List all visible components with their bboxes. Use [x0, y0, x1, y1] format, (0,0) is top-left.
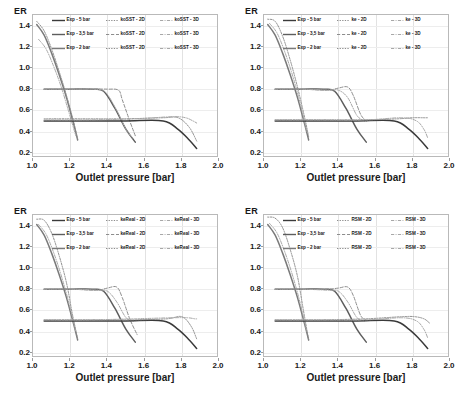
legend-item[interactable]: koSST - 3D	[160, 18, 212, 23]
legend-line-swatch	[52, 232, 65, 237]
y-tick-label: 0.4	[0, 126, 30, 135]
legend-item[interactable]: Exp - 2 bar	[52, 46, 104, 51]
x-tick-label: 1.4	[332, 361, 343, 370]
legend-line-swatch	[106, 46, 119, 51]
y-tick-label: 0.2	[0, 147, 30, 156]
legend-label: Exp - 5 bar	[298, 18, 322, 23]
legend-item[interactable]: koSST - 2D	[106, 46, 158, 51]
legend-line-swatch	[52, 218, 65, 223]
legend-item[interactable]: Exp - 2 bar	[283, 246, 335, 251]
legend-line-swatch	[106, 218, 119, 223]
y-tick-label: 0.6	[0, 305, 30, 314]
y-tick-label: 1.0	[231, 263, 261, 272]
y-tick-label: 1.2	[231, 41, 261, 50]
y-tick-label: 1.0	[231, 63, 261, 72]
legend-item[interactable]: keReal - 2D	[106, 218, 158, 223]
legend-item[interactable]: Exp - 2 bar	[283, 46, 335, 51]
legend-label: keReal - 3D	[175, 246, 200, 251]
figure-grid: ER 0.20.40.60.81.01.21.4 1.01.21.41.61.8…	[0, 0, 462, 400]
legend-item[interactable]: Exp - 3,5 bar	[52, 32, 104, 37]
series-line	[275, 289, 364, 321]
legend-item[interactable]: Exp - 5 bar	[52, 18, 104, 23]
x-tick-label: 1.8	[175, 161, 186, 170]
legend-item[interactable]: ke - 3D	[391, 18, 443, 23]
y-tick-group-2: 0.20.40.60.81.01.21.4	[0, 214, 30, 357]
legend-label: RSM - 2D	[352, 246, 372, 251]
x-tick-group-2: 1.01.21.41.61.82.0	[32, 358, 218, 372]
legend-item[interactable]: koSST - 2D	[106, 32, 158, 37]
x-tick-group-1: 1.01.21.41.61.82.0	[263, 158, 449, 172]
x-tick-mark	[300, 358, 301, 361]
x-tick-mark	[106, 358, 107, 361]
legend-item[interactable]: keReal - 2D	[106, 232, 158, 237]
legend-item[interactable]: ke - 2D	[337, 18, 389, 23]
legend-label: ke - 2D	[352, 46, 367, 51]
legend-item[interactable]: Exp - 3,5 bar	[52, 232, 104, 237]
legend-item[interactable]: ke - 3D	[391, 32, 443, 37]
legend-line-swatch	[160, 232, 173, 237]
x-axis-title: Outlet pressure [bar]	[263, 172, 449, 183]
y-tick-label: 0.8	[231, 84, 261, 93]
legend-line-swatch	[391, 46, 404, 51]
legend-item[interactable]: RSM - 2D	[337, 232, 389, 237]
legend-label: Exp - 3,5 bar	[298, 32, 325, 37]
x-tick-label: 1.2	[64, 361, 75, 370]
y-tick-label: 0.6	[231, 305, 261, 314]
legend-label: koSST - 2D	[121, 46, 145, 51]
legend-item[interactable]: RSM - 2D	[337, 218, 389, 223]
x-tick-mark	[412, 158, 413, 161]
x-tick-label: 2.0	[443, 161, 454, 170]
legend-line-swatch	[160, 218, 173, 223]
legend-item[interactable]: RSM - 3D	[391, 218, 443, 223]
legend-item[interactable]: Exp - 5 bar	[283, 218, 335, 223]
legend-item[interactable]: koSST - 3D	[160, 46, 212, 51]
legend-item[interactable]: Exp - 3,5 bar	[283, 232, 335, 237]
legend-item[interactable]: koSST - 3D	[160, 32, 212, 37]
legend-label: koSST - 3D	[175, 32, 199, 37]
legend-1: Exp - 5 barke - 2Dke - 3DExp - 3,5 barke…	[283, 18, 443, 51]
x-axis-title: Outlet pressure [bar]	[263, 372, 449, 383]
legend-item[interactable]: ke - 2D	[337, 46, 389, 51]
legend-item[interactable]: Exp - 5 bar	[52, 218, 104, 223]
legend-item[interactable]: ke - 3D	[391, 46, 443, 51]
legend-item[interactable]: RSM - 2D	[337, 246, 389, 251]
legend-line-swatch	[391, 218, 404, 223]
legend-item[interactable]: Exp - 5 bar	[283, 18, 335, 23]
legend-item[interactable]: keReal - 2D	[106, 246, 158, 251]
x-tick-mark	[32, 358, 33, 361]
x-tick-mark	[337, 358, 338, 361]
legend-item[interactable]: Exp - 2 bar	[52, 246, 104, 251]
series-line	[275, 289, 366, 342]
legend-label: Exp - 2 bar	[67, 246, 91, 251]
legend-item[interactable]: Exp - 3,5 bar	[283, 32, 335, 37]
legend-item[interactable]: ke - 2D	[337, 32, 389, 37]
series-line	[275, 120, 428, 148]
legend-line-swatch	[391, 246, 404, 251]
legend-item[interactable]: koSST - 2D	[106, 18, 158, 23]
x-axis-title: Outlet pressure [bar]	[32, 372, 218, 383]
legend-line-swatch	[283, 32, 296, 37]
x-tick-label: 1.6	[369, 161, 380, 170]
y-tick-label: 0.2	[0, 347, 30, 356]
legend-label: RSM - 3D	[406, 232, 426, 237]
series-line	[275, 320, 428, 348]
legend-label: Exp - 2 bar	[67, 46, 91, 51]
legend-label: koSST - 2D	[121, 32, 145, 37]
legend-line-swatch	[160, 246, 173, 251]
legend-item[interactable]: keReal - 3D	[160, 232, 212, 237]
legend-label: koSST - 2D	[121, 18, 145, 23]
legend-item[interactable]: RSM - 3D	[391, 246, 443, 251]
y-tick-label: 0.6	[231, 105, 261, 114]
x-tick-label: 1.8	[406, 161, 417, 170]
legend-item[interactable]: keReal - 3D	[160, 218, 212, 223]
legend-line-swatch	[283, 218, 296, 223]
y-tick-label: 0.8	[0, 84, 30, 93]
legend-0: Exp - 5 barkoSST - 2DkoSST - 3DExp - 3,5…	[52, 18, 212, 51]
legend-item[interactable]: keReal - 3D	[160, 246, 212, 251]
x-tick-mark	[412, 358, 413, 361]
chart-panel-1: ER 0.20.40.60.81.01.21.4 1.01.21.41.61.8…	[231, 0, 462, 200]
y-tick-group-0: 0.20.40.60.81.01.21.4	[0, 14, 30, 157]
legend-item[interactable]: RSM - 3D	[391, 232, 443, 237]
chart-panel-0: ER 0.20.40.60.81.01.21.4 1.01.21.41.61.8…	[0, 0, 231, 200]
legend-label: ke - 3D	[406, 18, 421, 23]
